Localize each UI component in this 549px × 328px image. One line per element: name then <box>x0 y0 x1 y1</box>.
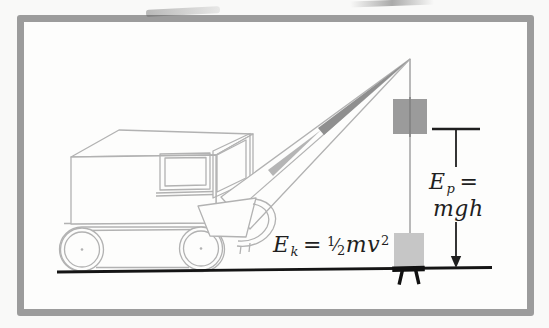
ground-hook-marker <box>395 269 422 283</box>
ep-line1: Ep= <box>429 170 484 197</box>
scanned-figure-page: Ek=1⁄2mv2 Ep= mgh <box>0 0 549 328</box>
ek-subscript: k <box>291 244 299 259</box>
guard-struts <box>240 243 250 254</box>
ek-exponent: 2 <box>381 233 390 248</box>
potential-energy-formula: Ep= mgh <box>429 170 484 221</box>
right-wheel-hub <box>200 247 203 250</box>
half-denominator: 2 <box>337 243 346 258</box>
dimension-arrowhead <box>451 256 461 268</box>
ek-body: mv <box>346 232 380 257</box>
marker-right-leg <box>416 272 419 283</box>
crane-tracks <box>60 223 231 272</box>
marker-bar <box>395 269 422 270</box>
ep-symbol: E <box>429 169 446 194</box>
ep-subscript: p <box>447 181 456 196</box>
left-wheel-hub <box>81 248 84 251</box>
crane-energy-figure <box>0 0 549 328</box>
ek-symbol: E <box>273 232 290 257</box>
ep-line2: mgh <box>429 197 484 221</box>
marker-left-leg <box>400 272 403 283</box>
ek-equals: = <box>303 232 322 257</box>
ground-weight <box>394 233 424 267</box>
ep-equals: = <box>459 169 478 194</box>
kinetic-energy-formula: Ek=1⁄2mv2 <box>273 233 389 260</box>
